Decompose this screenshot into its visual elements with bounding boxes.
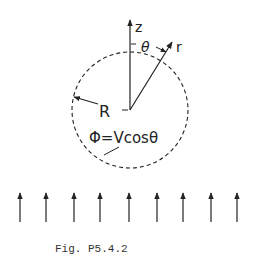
theta-arrow: [156, 47, 166, 52]
uniform-field-arrows: [20, 193, 237, 222]
diagram-canvas: z r θ R Φ=Vcosθ Fig. P5.4.2: [0, 0, 256, 272]
figure-caption: Fig. P5.4.2: [55, 243, 128, 255]
theta-label: θ: [141, 39, 150, 55]
radius-label: R: [99, 102, 110, 121]
z-axis-label: z: [135, 19, 142, 35]
r-axis-label: r: [176, 39, 182, 55]
potential-formula: Φ=Vcosθ: [89, 129, 158, 147]
formula-leader-line: [104, 147, 119, 155]
radius-pointer-arrow: [74, 97, 98, 104]
